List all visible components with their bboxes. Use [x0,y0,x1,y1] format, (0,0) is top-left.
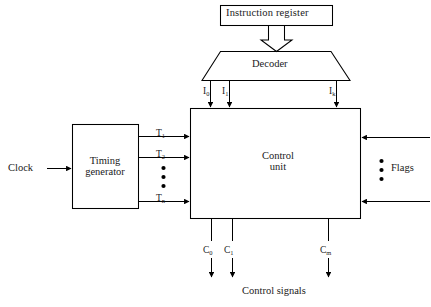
instruction-register-label: Instruction register [226,7,309,18]
control-output-label-c0: C0 [203,245,213,255]
decoder-output-label-i1: I1 [222,86,228,96]
t2-sub: 2 [162,153,165,160]
clock-input-label: Clock [8,162,33,173]
flags-input-label: Flags [391,162,414,173]
diagram-svg [0,0,431,307]
decoder-label: Decoder [252,58,288,69]
decoder-output-label-i0: I0 [203,86,209,96]
tn-sub: n [162,197,165,204]
timing-generator-label-line2: generator [85,166,125,177]
figure-canvas: Instruction register Decoder Control uni… [0,0,431,307]
timing-ellipsis-dots [161,166,165,188]
cm-sub: m [326,249,331,256]
decoder-output-label-ik: Ik [329,86,335,96]
c0-sub: 0 [209,249,212,256]
timing-output-label-t2: T2 [156,149,165,159]
t2-base: T [156,149,162,159]
control-output-label-c1: C1 [224,245,234,255]
control-unit-label-line2: unit [270,161,286,172]
timing-generator-label-line1: Timing [90,155,121,166]
t1-base: T [156,128,162,138]
c1-sub: 1 [230,249,233,256]
timing-output-label-t1: T1 [156,128,165,138]
block-arrow-ir-to-decoder [261,26,292,52]
tn-base: T [156,193,162,203]
timing-generator-label: Timing generator [78,155,132,178]
t1-sub: 1 [162,132,165,139]
ik-sub: k [332,90,335,97]
i0-sub: 0 [206,90,209,97]
control-output-label-cm: Cm [320,245,331,255]
control-signals-label: Control signals [242,285,306,296]
timing-output-label-tn: Tn [156,193,165,203]
flags-ellipsis-dots [379,159,383,181]
control-unit-label: Control unit [252,150,304,173]
control-unit-label-line1: Control [262,150,294,161]
i1-sub: 1 [225,90,228,97]
